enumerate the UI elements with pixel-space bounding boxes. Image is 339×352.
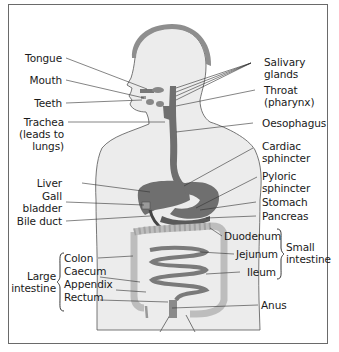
label-cardiac-sphincter: Cardiac sphincter [262, 140, 310, 164]
label-salivary-line1: Salivary [264, 56, 305, 68]
label-ileum: Ileum [247, 266, 276, 278]
label-pyloric-sphincter: Pyloric sphincter [262, 170, 310, 194]
label-liver: Liver [16, 177, 62, 189]
label-pyloric-line1: Pyloric [262, 170, 310, 182]
label-rectum: Rectum [64, 291, 103, 303]
label-trachea-line3: lungs) [10, 140, 64, 152]
label-trachea-line1: Trachea [10, 116, 64, 128]
label-cardiac-line1: Cardiac [262, 140, 310, 152]
label-throat: Throat (pharynx) [264, 84, 314, 108]
label-oesophagus: Oesophagus [262, 117, 326, 129]
label-tongue: Tongue [16, 52, 62, 64]
label-pyloric-line2: sphincter [262, 182, 310, 194]
label-large-intestine: Large intestine [8, 270, 56, 294]
label-mouth: Mouth [16, 74, 62, 86]
label-duodenum: Duodenum [224, 230, 281, 242]
label-large-line2: intestine [8, 282, 56, 294]
label-caecum: Caecum [64, 265, 106, 277]
label-gall-line2: bladder [10, 202, 62, 214]
label-salivary-glands: Salivary glands [264, 56, 305, 80]
label-gall-bladder: Gall bladder [10, 190, 62, 214]
label-small-line2: intestine [286, 253, 331, 265]
label-small-line1: Small [286, 241, 331, 253]
label-throat-line1: Throat [264, 84, 314, 96]
label-jejunum: Jejunum [236, 248, 278, 260]
label-anus: Anus [261, 299, 287, 311]
label-trachea-line2: (leads to [10, 128, 64, 140]
label-stomach: Stomach [262, 196, 308, 208]
label-salivary-line2: glands [264, 68, 305, 80]
label-appendix: Appendix [64, 278, 113, 290]
rectum [169, 300, 177, 318]
label-colon: Colon [64, 252, 93, 264]
label-small-intestine: Small intestine [286, 241, 331, 265]
label-pancreas: Pancreas [262, 210, 308, 222]
brace-small-intestine [276, 228, 286, 280]
label-gall-line1: Gall [10, 190, 62, 202]
label-bile-duct: Bile duct [10, 215, 62, 227]
label-throat-line2: (pharynx) [264, 96, 314, 108]
label-teeth: Teeth [16, 97, 62, 109]
label-trachea: Trachea (leads to lungs) [10, 116, 64, 152]
label-cardiac-line2: sphincter [262, 152, 310, 164]
label-large-line1: Large [8, 270, 56, 282]
